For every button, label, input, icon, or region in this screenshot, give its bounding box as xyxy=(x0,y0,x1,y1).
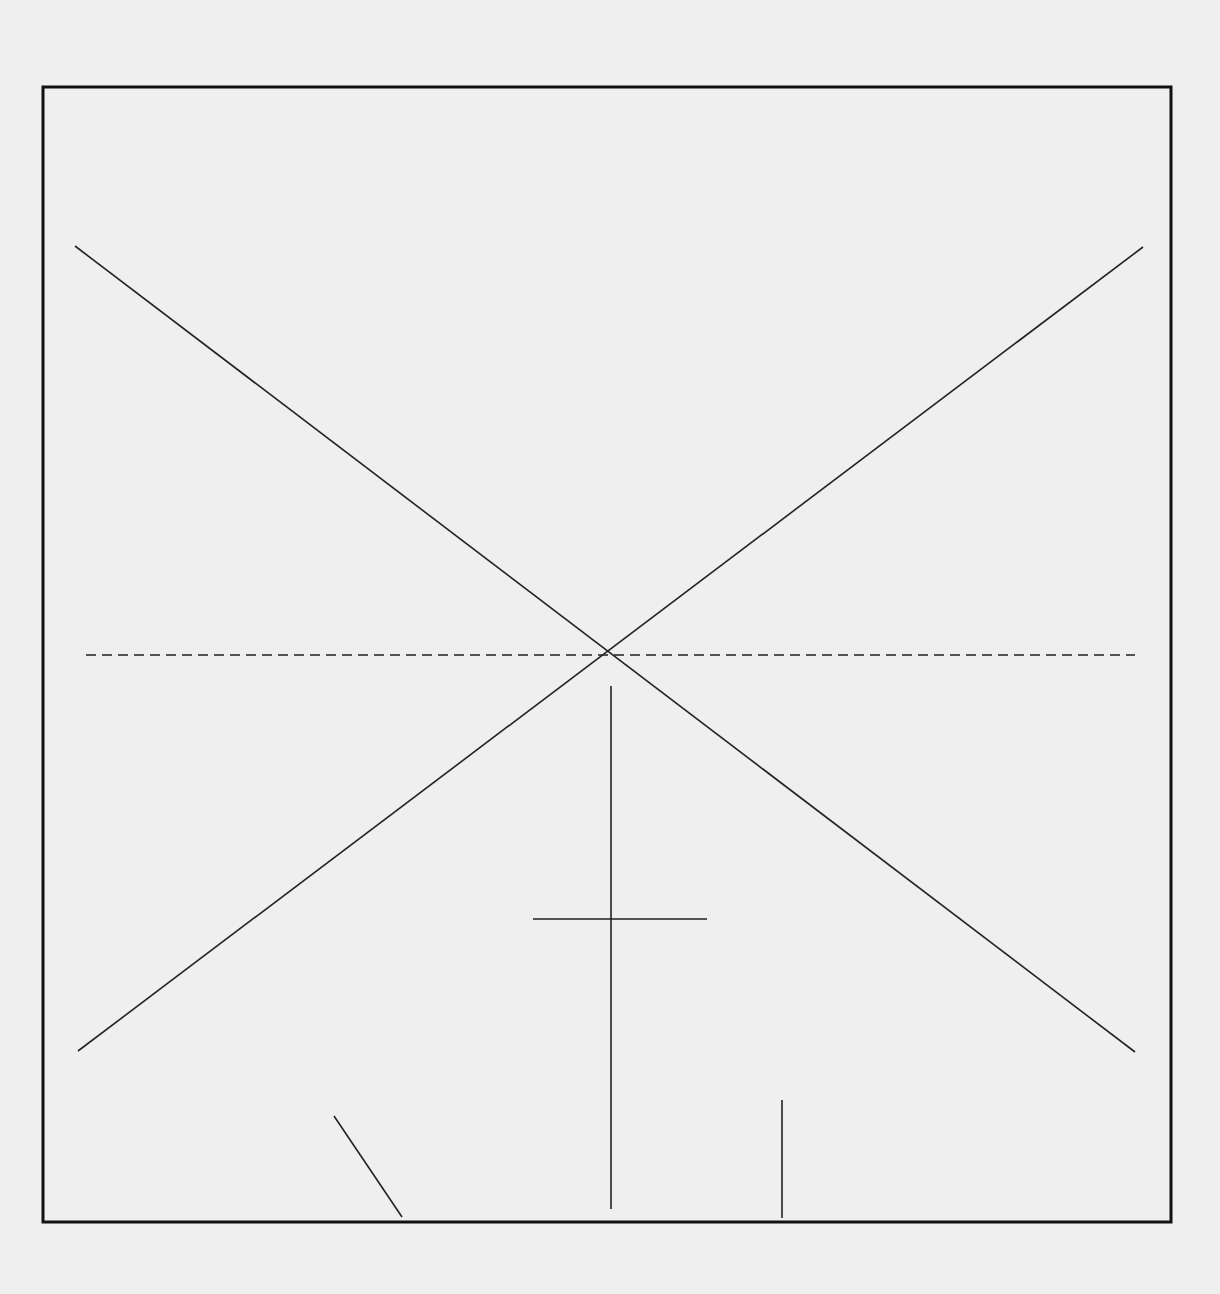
short-slanted-line-line xyxy=(334,1116,402,1217)
diagram-canvas xyxy=(0,0,1220,1294)
diagonal-descending-line xyxy=(75,246,1135,1052)
diagram-lines xyxy=(75,246,1143,1218)
